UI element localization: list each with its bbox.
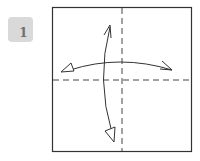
origami-diagram bbox=[0, 0, 200, 161]
